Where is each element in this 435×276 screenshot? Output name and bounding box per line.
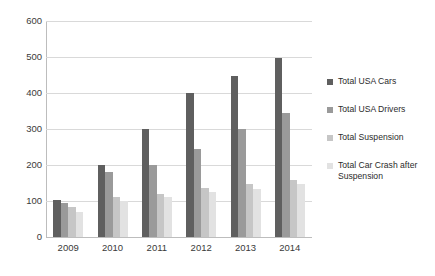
gridline [46,165,312,166]
y-axis-tick-label: 200 [2,160,42,170]
legend-label: Total Car Crash after Suspension [338,160,431,182]
legend-swatch-icon [327,135,333,141]
bar [120,201,128,237]
y-axis-tick-label: 600 [2,16,42,26]
bar-group [186,21,216,237]
legend-swatch-icon [327,79,333,85]
y-axis-tick-label: 100 [2,196,42,206]
gridline [46,201,312,202]
bar [68,207,76,237]
bar-group [142,21,172,237]
legend-label: Total USA Cars [338,76,396,87]
bar [98,165,106,237]
bar-chart: 0100200300400500600 20092010201120122013… [0,0,435,276]
legend-label: Total USA Drivers [338,104,405,115]
bar [297,184,305,237]
bar [194,149,202,237]
legend-swatch-icon [327,107,333,113]
x-axis-tick-label: 2010 [90,243,134,253]
bar [76,212,84,237]
bar-group [53,21,83,237]
legend-label: Total Suspension [338,132,403,143]
bar [238,129,246,237]
y-axis-tick-label: 400 [2,88,42,98]
bar [253,189,261,237]
bar [246,184,254,237]
legend-item[interactable]: Total Car Crash after Suspension [327,160,431,182]
bar [164,197,172,237]
legend-item[interactable]: Total Suspension [327,132,431,143]
legend-item[interactable]: Total USA Drivers [327,104,431,115]
bar [275,58,283,237]
x-axis-tick-label: 2011 [135,243,179,253]
bar [290,180,298,237]
x-axis-tick-label: 2013 [223,243,267,253]
bar-group [231,21,261,237]
y-axis-tick-label: 0 [2,232,42,242]
bar [61,203,69,237]
bar [157,194,165,237]
bar [209,192,217,237]
bar [201,188,209,237]
bar-group [275,21,305,237]
plot-area [46,21,312,237]
bar [113,197,121,237]
chart-legend: Total USA CarsTotal USA DriversTotal Sus… [327,76,431,199]
bar-group [98,21,128,237]
bar [282,113,290,237]
y-axis-tick-label: 300 [2,124,42,134]
gridline [46,21,312,22]
legend-item[interactable]: Total USA Cars [327,76,431,87]
y-axis-tick-label: 500 [2,52,42,62]
gridline [46,57,312,58]
x-axis-tick-label: 2014 [268,243,312,253]
x-axis-tick-label: 2009 [46,243,90,253]
y-axis-tick-labels: 0100200300400500600 [0,21,42,237]
bar [105,172,113,237]
bar [186,93,194,237]
gridline [46,129,312,130]
bar [53,200,61,237]
bar [149,165,157,237]
legend-swatch-icon [327,163,333,169]
bar [142,129,150,237]
gridline [46,93,312,94]
gridline [46,237,312,238]
bar [231,76,239,237]
x-axis-tick-label: 2012 [179,243,223,253]
